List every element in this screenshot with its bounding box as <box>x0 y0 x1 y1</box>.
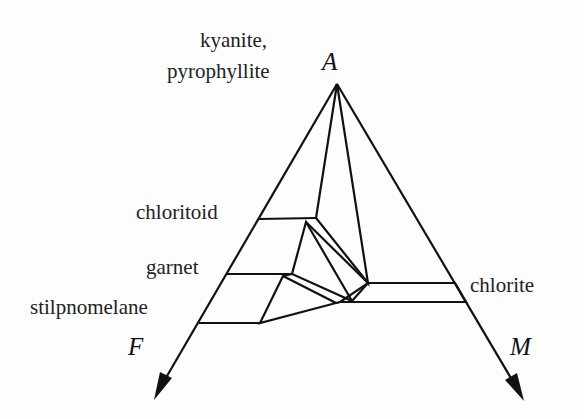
label-stilpnomelane: stilpnomelane <box>30 295 148 319</box>
vertex-A: A <box>320 48 338 75</box>
label-kyanite: kyanite, <box>200 28 267 52</box>
f-arrow-icon <box>154 372 172 400</box>
label-garnet: garnet <box>146 255 199 279</box>
label-pyrophyllite: pyrophyllite <box>167 59 270 83</box>
m-arrow-icon <box>505 373 524 401</box>
label-chloritoid: chloritoid <box>136 200 218 224</box>
vertex-M: M <box>509 333 532 360</box>
right-side <box>337 84 518 390</box>
chloritoid-tie <box>259 218 316 219</box>
chloritoid-garnet-field <box>292 222 352 301</box>
left-side <box>160 84 337 388</box>
tie-line <box>336 302 340 303</box>
garnet-stilpnomelane-field <box>260 276 336 323</box>
label-chlorite: chlorite <box>470 273 534 297</box>
afm-diagram: kyanite, pyrophyllite A chloritoid garne… <box>0 0 584 419</box>
vertex-F: F <box>127 333 144 360</box>
afm-diagram-svg: kyanite, pyrophyllite A chloritoid garne… <box>0 0 584 419</box>
